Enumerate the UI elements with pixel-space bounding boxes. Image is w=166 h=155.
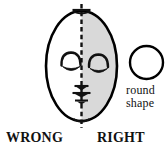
left-eye-lid-crescent-icon — [63, 67, 81, 71]
caption-wrong: WRONG — [6, 130, 63, 146]
caption-right: RIGHT — [97, 130, 145, 146]
left-eye-brow-arc-icon — [61, 53, 80, 66]
round-shape-circle — [130, 46, 163, 79]
round-shape-annotation: round shape — [126, 84, 166, 110]
left-eye — [61, 53, 80, 71]
figure-canvas: round shape WRONG RIGHT — [0, 0, 166, 155]
round-shape-line-2: shape — [126, 97, 166, 110]
